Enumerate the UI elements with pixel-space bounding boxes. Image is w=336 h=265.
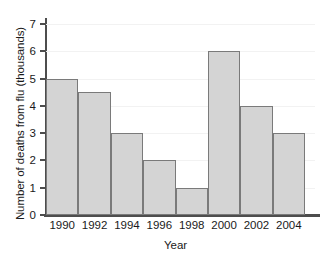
gridline [46, 79, 315, 80]
y-tick-label: 7 [18, 18, 36, 30]
y-tick-mark [40, 23, 45, 25]
bar [111, 133, 143, 215]
x-axis-title: Year [46, 239, 305, 251]
y-tick-label: 3 [18, 127, 36, 139]
x-tick-label: 2004 [269, 219, 309, 232]
gridline [46, 51, 315, 52]
bar [273, 133, 305, 215]
y-tick-label: 1 [18, 182, 36, 194]
y-tick-mark [40, 50, 45, 52]
y-tick-mark [40, 159, 45, 161]
gridline [46, 24, 315, 25]
y-tick-mark [40, 187, 45, 189]
bar [78, 92, 110, 215]
y-tick-mark [40, 105, 45, 107]
y-tick-label: 6 [18, 45, 36, 57]
y-tick-label: 2 [18, 154, 36, 166]
plot-area [46, 24, 305, 215]
y-tick-mark [40, 78, 45, 80]
bar [143, 160, 175, 215]
bar-chart-figure: Number of deaths from flu (thousands) 01… [0, 0, 336, 265]
bar [46, 79, 78, 215]
y-tick-label: 5 [18, 73, 36, 85]
y-tick-mark [40, 132, 45, 134]
y-tick-label: 0 [18, 209, 36, 221]
y-tick-label: 4 [18, 100, 36, 112]
bar [240, 106, 272, 215]
bar [208, 51, 240, 215]
bar [176, 188, 208, 215]
y-tick-mark [40, 214, 45, 216]
